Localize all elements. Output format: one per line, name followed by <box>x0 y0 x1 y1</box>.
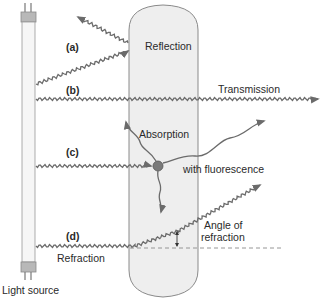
ray-c-tag: (c) <box>66 146 79 158</box>
absorption-label: Absorption <box>139 128 189 140</box>
light-interaction-diagram: (a) Reflection (b) Transmission Absorpti… <box>0 0 324 301</box>
transmission-label: Transmission <box>218 83 280 95</box>
light-source-tube <box>21 3 36 280</box>
light-source-label: Light source <box>2 284 59 296</box>
ray-a-incident-wave <box>36 51 128 85</box>
reflection-label: Reflection <box>145 40 192 52</box>
refraction-label: Refraction <box>57 252 105 264</box>
refraction-angle-label: refraction <box>201 231 245 243</box>
absorbing-particle <box>153 161 163 171</box>
ray-b-tag: (b) <box>66 84 79 96</box>
fluorescence-label: with fluorescence <box>182 163 264 175</box>
angle-of-label: Angle of <box>204 219 243 231</box>
ray-a-tag: (a) <box>66 41 79 53</box>
ray-a-reflected-wave <box>78 17 128 43</box>
ray-d-tag: (d) <box>66 230 79 242</box>
